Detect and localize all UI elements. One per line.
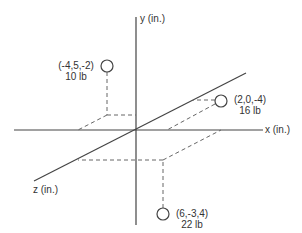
- p1-to-x: [78, 115, 107, 130]
- point-2-label: (2,0,-4) 16 lb: [229, 94, 271, 116]
- point-2-weight: 16 lb: [229, 105, 271, 116]
- point-3-label: (6,-3,4) 22 lb: [171, 208, 213, 230]
- y-axis-label: y (in.): [140, 13, 165, 24]
- z-axis: [34, 73, 246, 181]
- p3-to-x: [163, 130, 221, 160]
- point-1-weight: 10 lb: [52, 71, 100, 82]
- x-axis-label: x (in.): [265, 124, 290, 135]
- point-3-coords: (6,-3,4): [171, 208, 213, 219]
- z-axis-label: z (in.): [33, 184, 58, 195]
- mass-point-2: [215, 95, 227, 107]
- mass-point-3: [157, 208, 169, 220]
- p2-to-x: [167, 104, 215, 130]
- point-1-coords: (-4,5,-2): [52, 60, 100, 71]
- point-3-weight: 22 lb: [171, 219, 213, 230]
- mass-point-1: [101, 60, 113, 72]
- point-1-label: (-4,5,-2) 10 lb: [52, 60, 100, 82]
- point-2-coords: (2,0,-4): [229, 94, 271, 105]
- coordinate-diagram: [0, 0, 302, 233]
